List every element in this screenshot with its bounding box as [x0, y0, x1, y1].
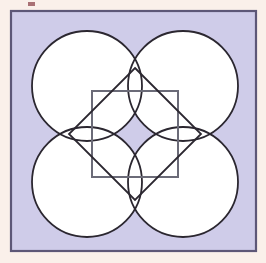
scan-speck — [28, 2, 35, 6]
geometric-figure — [0, 0, 266, 263]
figure-canvas — [0, 0, 266, 263]
